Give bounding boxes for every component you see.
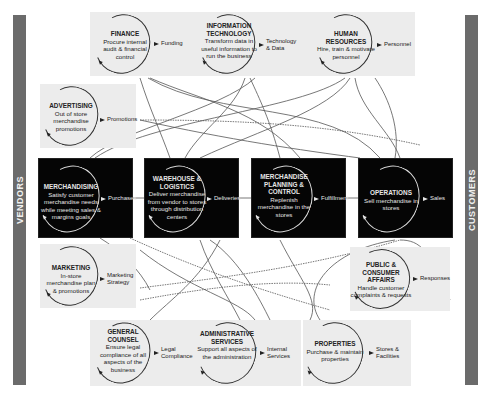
arrow-right-icon [314, 197, 319, 201]
customers-bar: CUSTOMERS [465, 15, 478, 385]
arrow-right-icon [101, 197, 106, 201]
box-title: ADMINISTRATIVE SERVICES [196, 330, 258, 345]
arrow-right-icon [154, 351, 159, 355]
box-description: Satisfy customer merchandise needs while… [41, 191, 101, 221]
retail-value-chain-diagram: VENDORS CUSTOMERS FINANCE Procure intern… [0, 0, 487, 398]
box-title: MERCHANDISE PLANNING & CONTROL [254, 173, 314, 196]
box-title: GENERAL COUNSEL [98, 328, 148, 343]
box-output: Technology & Data [266, 38, 301, 53]
arrow-right-icon [260, 351, 265, 355]
finance-box: FINANCE Procure internal audit & financi… [90, 12, 200, 76]
box-title: INFORMATION TECHNOLOGY [200, 22, 258, 37]
arrow-right-icon [423, 197, 428, 201]
box-output: Purchases [108, 195, 136, 202]
customers-label: CUSTOMERS [467, 169, 477, 231]
box-description: Support all aspects of the administratio… [196, 345, 258, 360]
merchandising-box: MERCHANDISING Satisfy customer merchandi… [38, 158, 133, 238]
general-counsel-box: GENERAL COUNSEL Ensure legal compliance … [90, 320, 198, 386]
human-resources-box: HUMAN RESOURCES Hire, train & motivate p… [305, 12, 415, 76]
box-description: Ensure legal compliance of all aspects o… [98, 343, 148, 373]
marketing-box: MARKETING In-store merchandise plan & pr… [40, 244, 136, 308]
properties-box: PROPERTIES Purchase & maintain propertie… [303, 320, 411, 386]
box-output: Personnel [384, 41, 411, 48]
arrow-right-icon [369, 351, 374, 355]
box-output: Funding [161, 40, 183, 47]
arrow-right-icon [100, 118, 105, 122]
box-output: Marketing Strategy [107, 272, 136, 287]
box-description: Replenish merchandise in the stores [254, 196, 314, 219]
operations-box: OPERATIONS Sell merchandise in stores Sa… [358, 158, 453, 238]
arrow-right-icon [259, 43, 264, 47]
box-description: Procure internal audit & financial contr… [100, 38, 150, 61]
box-output: Responses [420, 275, 450, 282]
box-title: ADVERTISING [46, 102, 96, 110]
box-output: Fulfillment [321, 195, 348, 202]
box-output: Promotions [107, 116, 137, 123]
warehouse-logistics-box: WAREHOUSE & LOGISTICS Deliver merchandis… [144, 158, 239, 238]
box-output: Stores & Facilities [376, 346, 407, 361]
information-technology-box: INFORMATION TECHNOLOGY Transform data in… [195, 12, 305, 76]
advertising-box: ADVERTISING Out of store merchandise pro… [40, 84, 136, 148]
arrow-right-icon [377, 43, 382, 47]
box-title: MARKETING [44, 264, 98, 272]
arrow-right-icon [207, 197, 212, 201]
box-description: Deliver merchandise from vendor to store… [147, 190, 207, 220]
box-title: PUBLIC & CONSUMER AFFAIRS [350, 261, 412, 284]
box-title: WAREHOUSE & LOGISTICS [147, 175, 207, 190]
box-title: FINANCE [100, 30, 150, 38]
box-title: HUMAN RESOURCES [317, 30, 375, 45]
box-title: OPERATIONS [361, 189, 421, 197]
box-description: Handle customer complaints & requests [350, 284, 412, 299]
box-output: Sales [430, 195, 445, 202]
box-title: PROPERTIES [303, 340, 367, 348]
public-consumer-affairs-box: PUBLIC & CONSUMER AFFAIRS Handle custome… [350, 247, 450, 311]
merchandise-planning-control-box: MERCHANDISE PLANNING & CONTROL Replenish… [251, 158, 346, 238]
box-description: Hire, train & motivate personnel [317, 45, 375, 60]
box-title: MERCHANDISING [41, 183, 101, 191]
arrow-right-icon [100, 277, 105, 281]
vendors-bar: VENDORS [13, 15, 26, 385]
box-description: Transform data in useful information to … [200, 37, 258, 60]
box-description: In-store merchandise plan & promotions [44, 272, 98, 295]
vendors-label: VENDORS [15, 176, 25, 224]
box-output: Internal Services [267, 346, 296, 361]
box-output: Deliveries [214, 195, 240, 202]
arrow-right-icon [413, 277, 418, 281]
box-description: Out of store merchandise promotions [46, 110, 96, 133]
administrative-services-box: ADMINISTRATIVE SERVICES Support all aspe… [196, 320, 301, 386]
box-output: Legal Compliance [161, 346, 194, 361]
arrow-right-icon [154, 42, 159, 46]
box-description: Sell merchandise in stores [361, 197, 421, 212]
box-description: Purchase & maintain properties [303, 348, 367, 363]
